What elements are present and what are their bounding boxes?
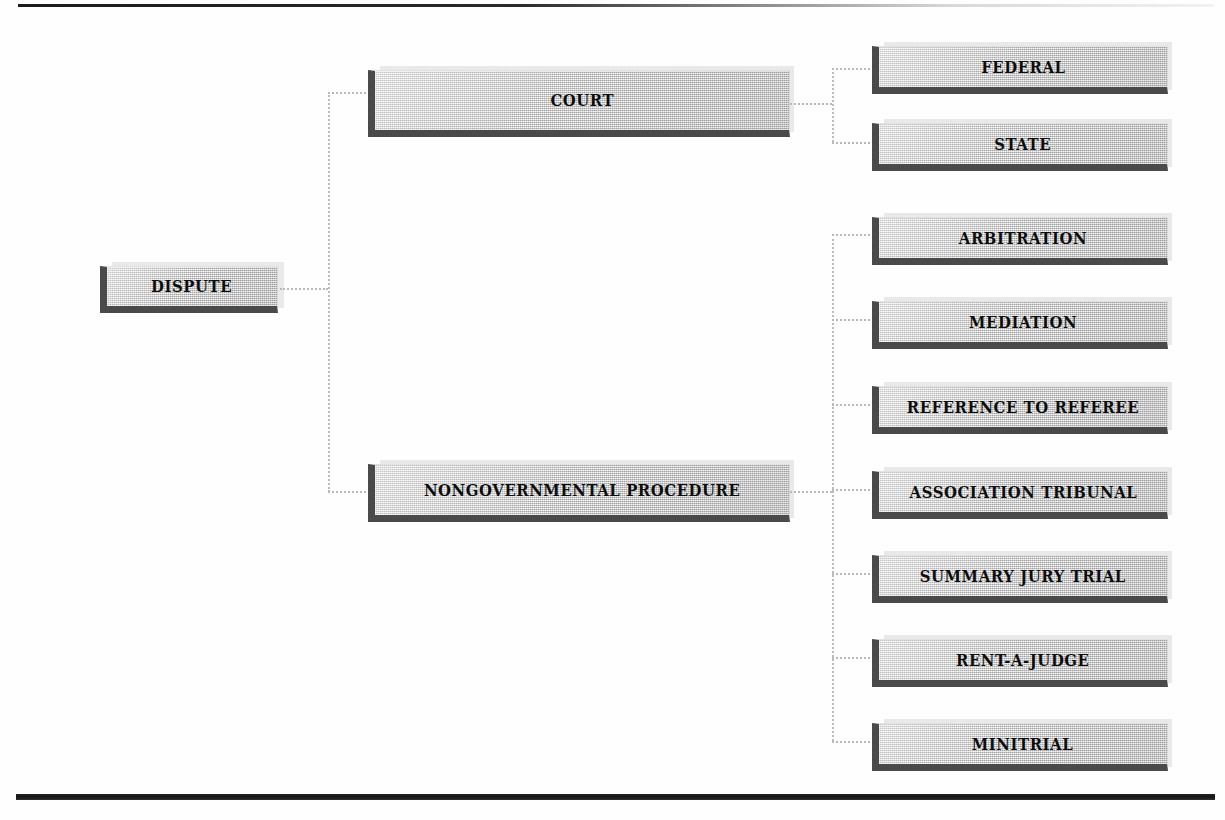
- node-arbitration[interactable]: ARBITRATION: [872, 217, 1168, 265]
- connector-trunk-to-court: [328, 92, 370, 94]
- connector-court-to-branch: [790, 103, 832, 105]
- node-mediation[interactable]: MEDIATION: [872, 301, 1168, 349]
- connector-nongovernmental-branch-trunk: [832, 234, 834, 741]
- page-top-rule: [18, 4, 1214, 7]
- node-federal[interactable]: FEDERAL: [872, 46, 1168, 94]
- node-nongovernmental-procedure[interactable]: NONGOVERNMENTAL PROCEDURE: [368, 464, 790, 522]
- node-label-summary-jury-trial: SUMMARY JURY TRIAL: [914, 567, 1131, 586]
- node-label-mediation: MEDIATION: [963, 313, 1082, 332]
- node-label-nongovernmental-procedure: NONGOVERNMENTAL PROCEDURE: [418, 481, 746, 500]
- node-label-dispute: DISPUTE: [146, 277, 238, 296]
- node-association-tribunal[interactable]: ASSOCIATION TRIBUNAL: [872, 471, 1168, 519]
- node-label-rent-a-judge: RENT-A-JUDGE: [951, 651, 1096, 670]
- connector-court-to-state: [832, 142, 874, 144]
- node-label-reference-to-referee: REFERENCE TO REFEREE: [901, 398, 1144, 417]
- connector-to-minitrial: [832, 741, 874, 743]
- node-state[interactable]: STATE: [872, 123, 1168, 171]
- connector-to-summary-jury-trial: [832, 573, 874, 575]
- node-label-arbitration: ARBITRATION: [953, 229, 1093, 248]
- connector-to-rent-a-judge: [832, 657, 874, 659]
- connector-main-trunk: [328, 92, 330, 492]
- node-court[interactable]: COURT: [368, 70, 790, 137]
- node-label-federal: FEDERAL: [975, 58, 1071, 77]
- node-label-state: STATE: [989, 135, 1057, 154]
- connector-to-arbitration: [832, 234, 874, 236]
- node-dispute[interactable]: DISPUTE: [100, 266, 278, 313]
- connector-court-branch-trunk: [832, 68, 834, 142]
- connector-nongovernmental-to-branch: [790, 491, 832, 493]
- connector-to-mediation: [832, 319, 874, 321]
- node-reference-to-referee[interactable]: REFERENCE TO REFEREE: [872, 386, 1168, 434]
- connector-court-to-federal: [832, 68, 874, 70]
- connector-dispute-to-trunk: [280, 288, 328, 290]
- node-rent-a-judge[interactable]: RENT-A-JUDGE: [872, 639, 1168, 687]
- node-label-association-tribunal: ASSOCIATION TRIBUNAL: [904, 483, 1143, 502]
- node-minitrial[interactable]: MINITRIAL: [872, 723, 1168, 771]
- page-bottom-rule: [16, 794, 1215, 800]
- connector-to-association-tribunal: [832, 489, 874, 491]
- node-label-minitrial: MINITRIAL: [967, 735, 1080, 754]
- connector-trunk-to-nongovernmental: [328, 491, 370, 493]
- diagram-canvas: DISPUTE COURT FEDERAL STATE NONGOVERNMEN…: [0, 0, 1225, 820]
- node-label-court: COURT: [545, 91, 620, 110]
- connector-to-reference-to-referee: [832, 404, 874, 406]
- node-summary-jury-trial[interactable]: SUMMARY JURY TRIAL: [872, 555, 1168, 603]
